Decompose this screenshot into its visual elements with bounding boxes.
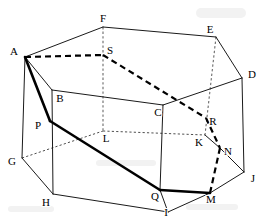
vertex-label-N: N: [224, 145, 232, 157]
edge-K-N: [205, 135, 220, 148]
vertex-label-F: F: [100, 12, 106, 24]
edge-M-J: [210, 172, 244, 193]
hidden-A-S: [25, 55, 103, 57]
vertex-label-K: K: [195, 136, 203, 148]
edge-B-C: [52, 90, 163, 105]
edge-A-B: [25, 57, 52, 90]
construction-G-L: [22, 131, 103, 158]
vertex-labels: ABCDEFGHIJKLMNPQRS: [8, 12, 256, 218]
vertex-label-R: R: [209, 115, 217, 127]
vertex-label-S: S: [107, 44, 113, 56]
vertex-label-Q: Q: [151, 190, 159, 202]
edge-C-D: [163, 78, 242, 105]
vertex-label-E: E: [207, 23, 214, 35]
vertical-axes: [103, 27, 216, 135]
hidden-N-M: [210, 148, 220, 193]
vertex-label-A: A: [10, 45, 18, 57]
vertex-label-B: B: [56, 92, 63, 104]
path-A-P: [25, 57, 50, 121]
edge-G-H: [22, 158, 53, 194]
vertex-label-P: P: [35, 119, 41, 131]
path-Q-M: [160, 190, 210, 193]
vertex-label-M: M: [206, 193, 216, 205]
edge-F-E: [103, 27, 216, 37]
vertex-label-J: J: [251, 172, 256, 184]
edge-A-F: [25, 27, 103, 57]
geometry-figure: ABCDEFGHIJKLMNPQRS: [0, 0, 263, 218]
edge-B-H: [52, 90, 53, 194]
construction-L-K: [103, 131, 205, 135]
vertex-label-D: D: [248, 68, 256, 80]
edge-A-G: [22, 57, 25, 158]
vertex-label-I: I: [164, 206, 168, 218]
construction-lines: [22, 131, 205, 158]
vertex-label-H: H: [42, 196, 50, 208]
scan-artifacts: [8, 8, 246, 212]
vertex-label-G: G: [8, 155, 16, 167]
vertex-label-L: L: [103, 132, 110, 144]
edge-E-D: [216, 37, 242, 78]
geometry-canvas: ABCDEFGHIJKLMNPQRS: [0, 0, 263, 218]
vertex-label-C: C: [154, 106, 161, 118]
edge-C-Q: [160, 105, 163, 190]
edge-D-J: [242, 78, 244, 172]
